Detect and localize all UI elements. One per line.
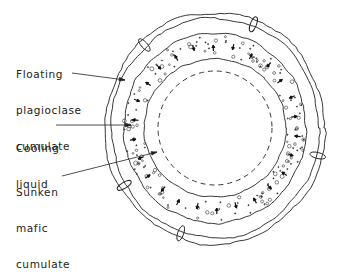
crystal-grain: [282, 165, 284, 167]
crystal-dot: [241, 59, 242, 60]
crystal-dot: [264, 204, 265, 205]
arrow-head-icon: [133, 138, 136, 141]
crystal-grain: [197, 217, 199, 219]
crystal-dot: [270, 58, 271, 59]
crystal-dot: [299, 113, 300, 114]
crystal-grain: [138, 90, 140, 92]
crystal-grain: [273, 72, 276, 75]
crystal-dot: [287, 168, 288, 169]
crystal-dot: [128, 102, 129, 103]
crystal-dot: [237, 202, 238, 203]
arrow-head-icon: [137, 99, 140, 102]
crystal-dot: [273, 178, 274, 179]
crystal-dot: [296, 106, 297, 107]
crystal-dot: [302, 135, 303, 136]
arrow-head-icon: [232, 47, 235, 50]
crystal-dot: [167, 204, 168, 205]
crystal-dot: [138, 163, 139, 164]
crystal-grain: [263, 68, 266, 71]
crystal-dot: [205, 42, 206, 43]
crystal-dot: [301, 105, 302, 106]
crystal-dot: [256, 58, 257, 59]
label-line: plagioclase: [16, 104, 82, 116]
crystal-dot: [143, 167, 144, 168]
label-line: Sunken: [16, 186, 70, 198]
crystal-grain: [288, 161, 290, 163]
crystal-grain: [227, 204, 231, 208]
crystal-dot: [273, 171, 274, 172]
crystal-grain: [297, 116, 300, 119]
arrow-head-icon: [138, 157, 141, 160]
crystal-grain: [266, 202, 269, 205]
plagioclase-layer-boundary: [123, 33, 307, 224]
crystal-grain: [273, 79, 276, 82]
label-line: Floating: [16, 68, 82, 80]
crystal-dot: [136, 155, 137, 156]
arrow-head-icon: [294, 115, 297, 118]
crystal-dot: [174, 66, 175, 67]
crystal-grain: [287, 141, 289, 143]
crystal-grain: [241, 42, 244, 45]
crystal-dot: [161, 60, 162, 61]
crystal-dot: [287, 134, 288, 135]
label-line: cumulate: [16, 258, 70, 270]
crystal-dot: [303, 139, 304, 140]
crystal-grain: [290, 157, 292, 159]
crystal-dot: [248, 205, 249, 206]
crystal-dot: [221, 219, 222, 220]
crystal-grain: [171, 54, 174, 57]
crystal-dot: [136, 173, 137, 174]
crystal-dot: [290, 100, 291, 101]
label-sunken-mafic-cumulate: Sunken mafic cumulate: [16, 162, 70, 272]
crystal-dot: [279, 95, 280, 96]
arrow-head-icon: [254, 198, 257, 201]
crystal-grain: [278, 65, 281, 68]
crystal-dot: [257, 195, 258, 196]
arrow-head-icon: [175, 55, 178, 58]
crystal-grain: [135, 149, 137, 151]
arrow-head-icon: [295, 135, 298, 138]
crystal-dot: [136, 145, 137, 146]
crystal-grain: [131, 125, 134, 128]
crystal-dot: [124, 129, 125, 130]
crystal-dot: [280, 72, 281, 73]
crystal-dot: [225, 42, 226, 43]
crystal-grain: [285, 106, 288, 109]
crystal-grain: [142, 160, 144, 162]
crystal-dot: [172, 51, 173, 52]
crystal-dot: [205, 201, 206, 202]
crystal-dot: [208, 44, 209, 45]
label-line: Cooling: [16, 142, 60, 154]
arrow-head-icon: [250, 54, 253, 57]
crystal-dot: [250, 48, 251, 49]
crystal-dot: [300, 148, 301, 149]
crystal-dot: [127, 151, 128, 152]
crystal-grain: [169, 64, 171, 66]
crystal-dot: [144, 147, 145, 148]
crystal-dot: [262, 193, 263, 194]
crust-lens: [137, 37, 152, 53]
crystal-grain: [153, 168, 156, 171]
crystal-grain: [167, 49, 169, 51]
arrow-head-icon: [177, 200, 180, 203]
crystal-dot: [280, 170, 281, 171]
crystal-dot: [147, 100, 148, 101]
mafic-layer-boundary: [144, 58, 287, 197]
label-line: mafic: [16, 222, 70, 234]
crystal-grain: [153, 172, 155, 174]
crystal-dot: [301, 147, 302, 148]
arrow-head-icon: [132, 119, 135, 122]
crystal-grain: [167, 206, 169, 208]
crystal-grain: [238, 196, 241, 199]
crystal-grain: [232, 55, 235, 58]
crystal-dot: [196, 45, 197, 46]
crystal-dot: [290, 163, 291, 164]
crystal-grain: [211, 212, 214, 215]
crystal-dot: [185, 208, 186, 209]
crystal-grain: [268, 198, 271, 201]
arrow-head-icon: [290, 154, 293, 157]
crystal-grain: [158, 79, 162, 83]
crystal-dot: [225, 40, 226, 41]
crystal-dot: [293, 147, 294, 148]
crystal-dot: [220, 202, 221, 203]
